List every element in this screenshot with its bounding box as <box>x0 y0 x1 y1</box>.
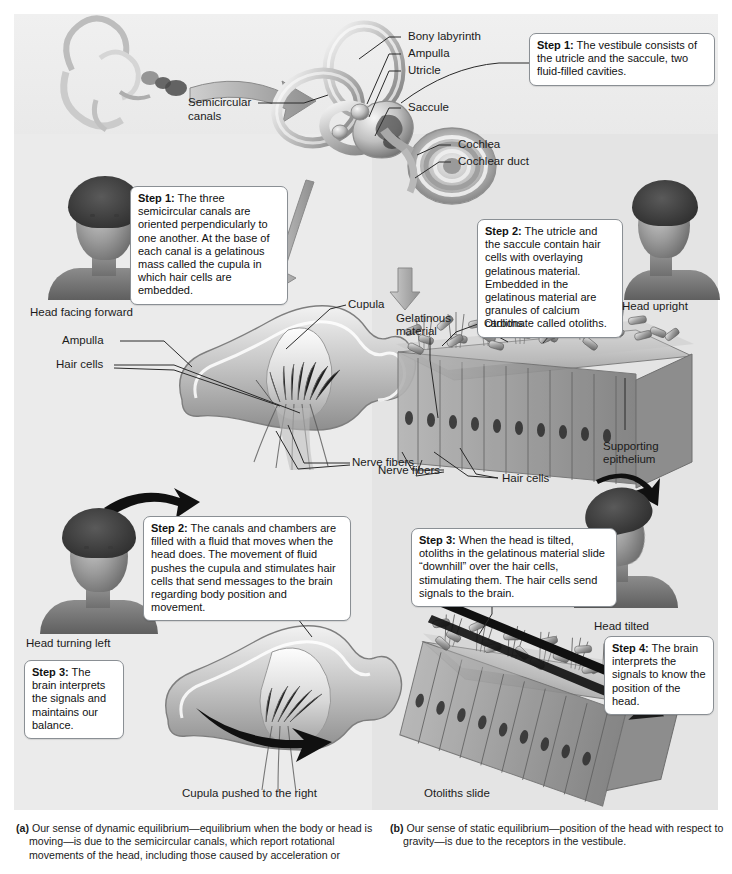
label-utricle: Utricle <box>408 64 441 78</box>
label-cochlear-duct: Cochlear duct <box>458 155 529 169</box>
callout-panel-a-step-1-text: The three semicircular canals are orient… <box>138 192 270 296</box>
label-cupula-pushed-to-the-right: Cupula pushed to the right <box>182 787 317 799</box>
label-head-facing-forward: Head facing forward <box>30 306 133 318</box>
label-cupula: Cupula <box>348 298 384 312</box>
label-ampulla-top: Ampulla <box>408 47 450 61</box>
callout-panel-b-step-3-label: Step 3: <box>419 534 456 546</box>
label-head-turning-left: Head turning left <box>26 637 110 649</box>
vestibular-equilibrium-figure: Semicircular canals Bony labyrinth Ampul… <box>0 0 732 874</box>
caption-panel-a-letter: (a) <box>16 822 29 834</box>
callout-panel-a-step-3: Step 3: The brain interprets the signals… <box>24 660 124 739</box>
callout-panel-a-step-3-label: Step 3: <box>32 666 69 678</box>
caption-panel-a-text: Our sense of dynamic equilibrium—equilib… <box>29 822 372 861</box>
label-nerve-fibers-panel-b: Nerve fibers <box>378 464 440 478</box>
label-cochlea: Cochlea <box>458 138 500 152</box>
callout-panel-b-step-2-text: The utricle and the saccule contain hair… <box>485 225 607 329</box>
callout-panel-b-step-4: Step 4: The brain interprets the signals… <box>604 636 714 715</box>
callout-panel-b-step-3: Step 3: When the head is tilted, otolith… <box>411 528 617 607</box>
callout-panel-a-step-1-label: Step 1: <box>138 192 175 204</box>
label-supporting-epithelium: Supporting epithelium <box>603 440 677 466</box>
label-head-upright: Head upright <box>622 300 688 312</box>
callout-panel-a-step-2-label: Step 2: <box>151 522 188 534</box>
label-otoliths-slide: Otoliths slide <box>424 787 490 799</box>
callout-panel-b-step-1: Step 1: The vestibule consists of the ut… <box>529 33 715 86</box>
label-ampulla-detail: Ampulla <box>62 334 104 348</box>
label-gelatinous-material: Gelatinous material <box>396 312 458 338</box>
label-semicircular-canals: Semicircular canals <box>188 96 258 123</box>
label-bony-labyrinth: Bony labyrinth <box>408 30 481 44</box>
callout-panel-b-step-1-label: Step 1: <box>537 39 574 51</box>
callout-panel-b-step-4-label: Step 4: <box>612 642 649 654</box>
callout-panel-a-step-1: Step 1: The three semicircular canals ar… <box>130 186 288 305</box>
callout-panel-a-step-2-text: The canals and chambers are filled with … <box>151 522 336 613</box>
label-hair-cells-panel-a: Hair cells <box>56 358 103 372</box>
caption-panel-b: (b) Our sense of static equilibrium—posi… <box>390 822 732 849</box>
label-hair-cells-panel-b: Hair cells <box>502 472 549 486</box>
callout-panel-a-step-2: Step 2: The canals and chambers are fill… <box>143 516 351 621</box>
caption-panel-b-text: Our sense of static equilibrium—position… <box>403 822 723 847</box>
caption-panel-a: (a) Our sense of dynamic equilibrium—equ… <box>16 822 379 862</box>
label-otoliths: Otoliths <box>484 317 523 331</box>
caption-panel-b-letter: (b) <box>390 822 404 834</box>
callout-panel-b-step-2-label: Step 2: <box>485 225 522 237</box>
label-head-tilted: Head tilted <box>594 620 649 632</box>
label-saccule: Saccule <box>408 101 449 115</box>
